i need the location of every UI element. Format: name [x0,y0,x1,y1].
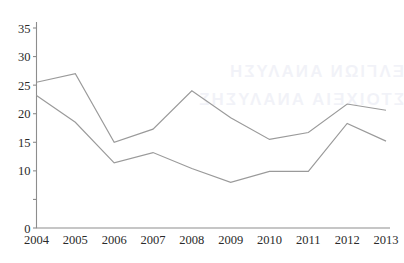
line-chart: ΕΛΓΙΩΝ ΑΝΑΛΥΣΗ ΣΤΟΙΧΕΙΑ ΑΝΑΛΥΣΗΣ 0101520… [0,0,404,263]
y-axis-tick-label: 25 [18,79,31,93]
x-axis-tick-label: 2009 [218,233,243,247]
x-axis-tick-label: 2013 [374,233,399,247]
x-axis-tick-label: 2011 [296,233,321,247]
x-axis-tick-label: 2004 [24,233,50,247]
x-axis-tick-label: 2012 [335,233,360,247]
y-axis-tick-labels: 0101520253035 [18,22,31,236]
x-axis-tick-label: 2005 [63,233,88,247]
plot-area: 0101520253035 20042005200620072008200920… [0,0,404,263]
y-axis-tick-label: 10 [18,164,31,178]
x-axis-tick-label: 2010 [257,233,282,247]
axis-lines [37,22,391,228]
y-axis-tick-label: 15 [18,136,31,150]
series-lines [37,74,387,183]
y-axis-tick-label: 30 [18,50,31,64]
y-axis-tick-label: 20 [18,107,31,121]
x-axis-tick-labels: 2004200520062007200820092010201120122013 [24,233,399,247]
x-axis-tick-label: 2007 [141,233,166,247]
series-line-upper-series [37,74,387,143]
series-line-lower-series [37,95,387,182]
y-axis-tick-label: 35 [18,22,31,36]
x-axis-tick-label: 2008 [179,233,204,247]
x-axis-tick-label: 2006 [102,233,127,247]
